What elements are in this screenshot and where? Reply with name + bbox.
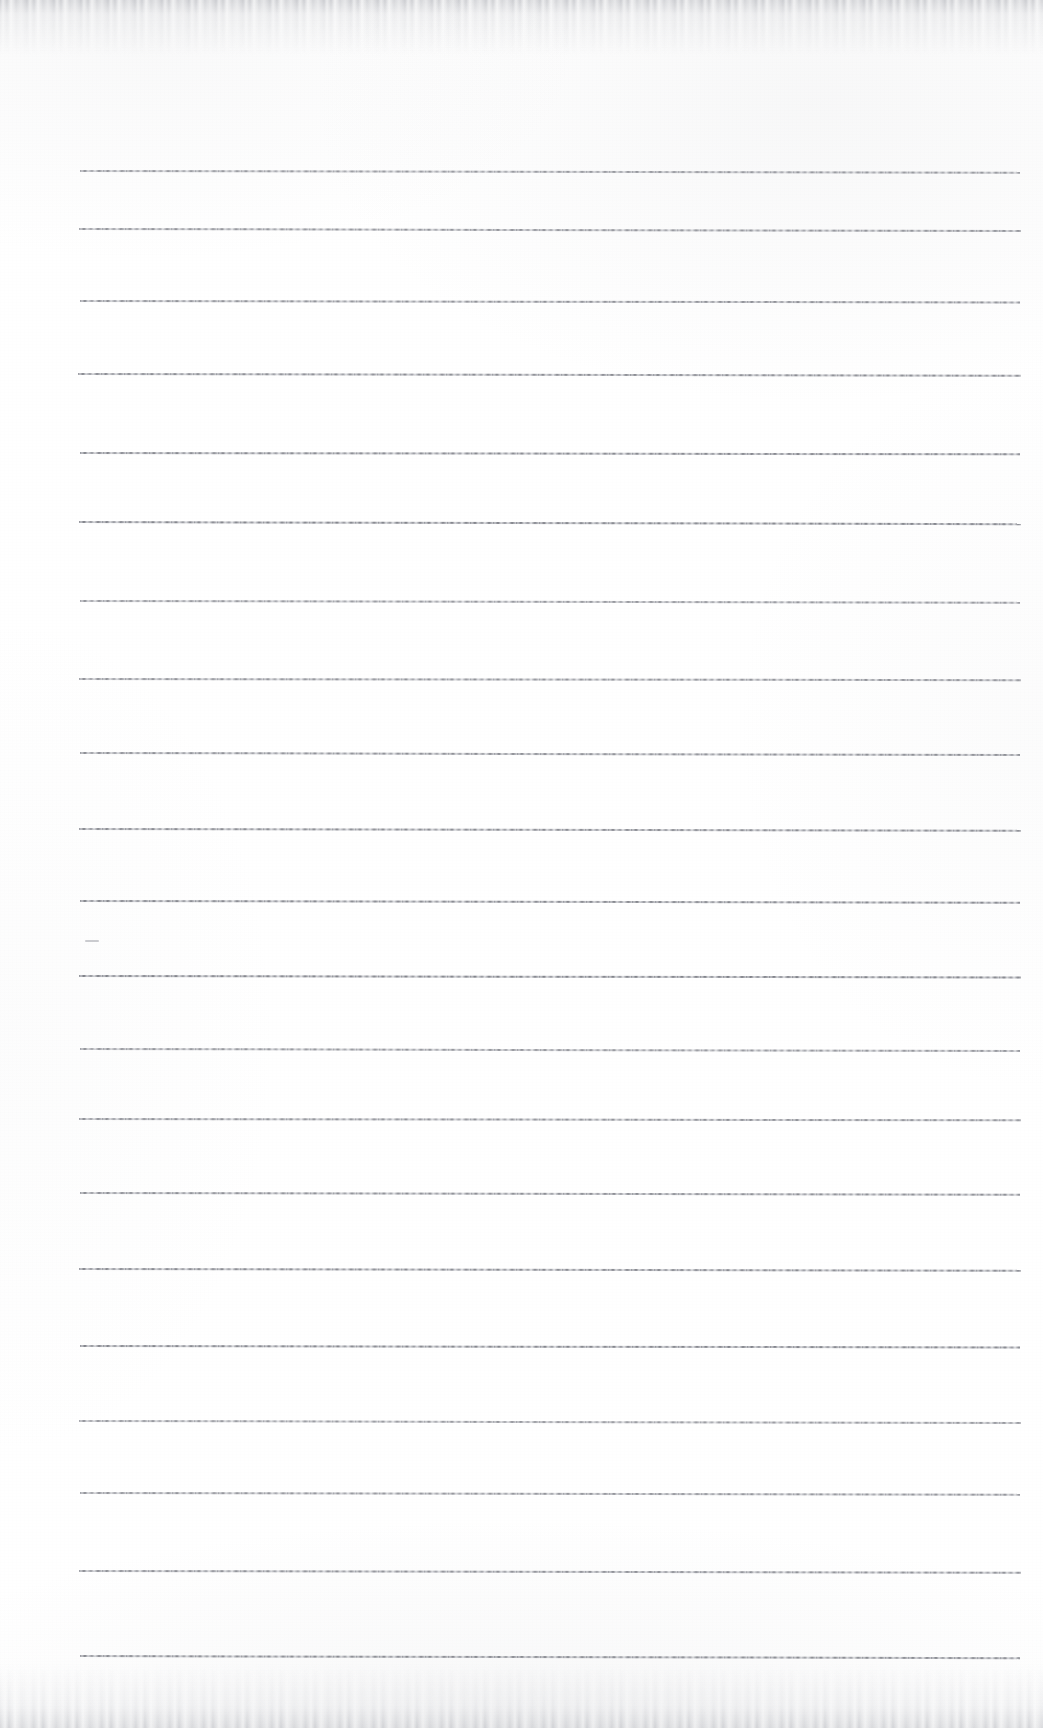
paper-background [0, 0, 1043, 1728]
rule-line [80, 1192, 1020, 1196]
rule-line [79, 828, 1021, 832]
rule-line [79, 1268, 1021, 1272]
paper-grain-texture [0, 0, 1043, 1728]
rule-line [79, 1570, 1021, 1574]
faint-pencil-tick [85, 940, 99, 942]
scanned-page [0, 0, 1043, 1728]
rule-line [78, 373, 1021, 377]
rule-line [80, 1655, 1020, 1659]
rule-line [79, 678, 1021, 681]
rule-line [80, 452, 1020, 455]
rule-line [79, 228, 1021, 232]
rule-line [80, 752, 1020, 756]
rule-line [80, 170, 1020, 174]
rule-line [79, 975, 1021, 978]
rule-line [80, 1048, 1020, 1052]
scan-edge-bottom-artifact [0, 1664, 1043, 1728]
rule-line [79, 1420, 1021, 1424]
rule-line [79, 1118, 1021, 1121]
rule-line [80, 300, 1020, 303]
ruled-lines-layer [0, 0, 1043, 1728]
rule-line [79, 521, 1021, 525]
rule-line [80, 1492, 1020, 1496]
scan-edge-top-artifact [0, 0, 1043, 56]
rule-line [80, 900, 1020, 904]
rule-line [80, 600, 1020, 604]
rule-line [80, 1345, 1020, 1348]
